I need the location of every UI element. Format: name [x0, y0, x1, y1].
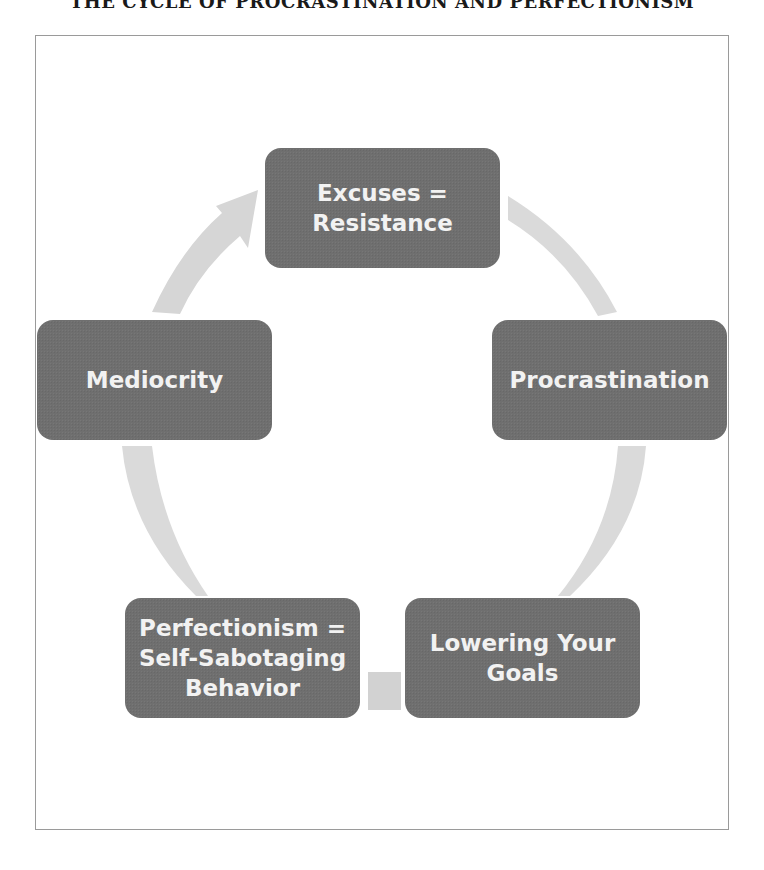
- arrow-excuses-to-procrastination: [508, 196, 617, 316]
- node-label: Lowering Your Goals: [430, 628, 615, 688]
- node-procrastination: Procrastination: [492, 320, 727, 440]
- node-perfectionism: Perfectionism = Self-Sabotaging Behavior: [125, 598, 360, 718]
- arrow-mediocrity-to-perfectionism: [122, 446, 208, 596]
- node-lowering-your-goals: Lowering Your Goals: [405, 598, 640, 718]
- node-mediocrity: Mediocrity: [37, 320, 272, 440]
- node-label: Excuses = Resistance: [312, 178, 453, 238]
- node-excuses-resistance: Excuses = Resistance: [265, 148, 500, 268]
- node-label: Procrastination: [509, 365, 709, 395]
- arrow-mediocrity-to-excuses: [152, 190, 258, 314]
- arrow-procrastination-to-lowering: [558, 446, 646, 596]
- node-label: Perfectionism = Self-Sabotaging Behavior: [139, 613, 346, 703]
- connector-block: [368, 672, 401, 710]
- node-label: Mediocrity: [86, 365, 223, 395]
